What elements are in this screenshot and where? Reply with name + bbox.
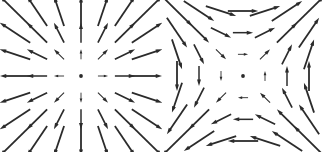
arrow-head: [229, 12, 236, 16]
quiver-arrow: [189, 23, 209, 43]
quiver-arrow: [0, 126, 30, 152]
arrow-head: [80, 49, 83, 53]
arrow-shaft: [115, 51, 132, 59]
arrow-head: [220, 77, 223, 81]
arrow-head: [104, 75, 108, 78]
quiver-arrow: [27, 49, 47, 59]
arrow-head: [264, 71, 267, 75]
arrow-shaft: [169, 104, 187, 130]
arrow-head: [79, 0, 83, 2]
quiver-arrow: [255, 114, 275, 124]
quiver-arrow: [194, 88, 204, 108]
quiver-arrow: [167, 104, 187, 134]
arrow-shaft: [211, 28, 228, 36]
quiver-arrow: [299, 104, 319, 134]
arrow-shaft: [98, 26, 106, 42]
arrow-shaft: [132, 126, 159, 152]
arrow-head: [250, 136, 257, 140]
quiver-arrow: [211, 28, 231, 38]
arrow-head: [285, 66, 289, 72]
arrow-shaft: [187, 131, 214, 149]
arrow-head: [175, 85, 179, 91]
arrow-head: [247, 31, 253, 35]
arrow-shaft: [132, 93, 158, 102]
quiver-arrow: [132, 74, 162, 78]
quiver-arrow: [0, 23, 30, 43]
quiver-arrow: [54, 49, 64, 59]
arrow-shaft: [31, 93, 48, 101]
arrow-head: [273, 6, 280, 10]
quiver-arrow: [260, 49, 270, 59]
vector-field-figure: [0, 0, 324, 152]
quiver-arrow: [175, 61, 179, 91]
arrow-shaft: [3, 25, 30, 43]
arrow-shaft: [4, 51, 30, 60]
quiver-arrow: [98, 0, 108, 26]
arrow-shaft: [189, 23, 206, 40]
arrow-shaft: [115, 109, 132, 126]
quiver-arrow: [98, 49, 108, 59]
quiver-arrow: [0, 0, 30, 26]
arrow-head: [172, 106, 176, 113]
arrow-head: [238, 96, 242, 99]
quiver-arrow: [277, 23, 297, 43]
arrow-shaft: [98, 109, 106, 125]
quiver-arrow: [79, 0, 83, 26]
quiver-arrow: [115, 93, 135, 103]
arrow-head: [27, 98, 34, 103]
quiver-arrow: [285, 66, 289, 86]
arrow-shaft: [184, 1, 211, 19]
arrow-shaft: [29, 0, 47, 26]
arrow-shaft: [115, 126, 133, 152]
quiver-arrow: [194, 44, 204, 64]
quiver-arrow: [54, 0, 64, 26]
arrow-shaft: [192, 109, 209, 126]
quiver-arrow: [79, 23, 83, 43]
quiver-arrow: [98, 109, 108, 129]
arrow-shaft: [30, 109, 47, 126]
quiver-arrow: [216, 49, 226, 59]
quiver-arrow: [197, 66, 201, 86]
arrow-shaft: [115, 0, 133, 26]
quiver-arrow: [220, 71, 223, 81]
quiver-arrow: [115, 23, 135, 43]
arrow-shaft: [132, 25, 159, 43]
arrow-head: [54, 123, 59, 130]
quiver-arrow: [0, 109, 30, 129]
arrow-shaft: [132, 0, 159, 26]
arrow-head: [206, 142, 213, 146]
arrow-shaft: [4, 93, 30, 102]
arrow-shaft: [3, 0, 30, 26]
arrow-shaft: [98, 0, 107, 26]
quiver-arrow: [132, 0, 162, 26]
arrow-head: [54, 75, 58, 78]
arrow-shaft: [132, 51, 158, 60]
arrow-head: [0, 99, 7, 103]
quiver-arrow: [0, 74, 30, 78]
quiver-arrow: [80, 49, 83, 59]
arrow-head: [225, 33, 232, 38]
quiver-arrow: [54, 75, 64, 78]
arrow-shaft: [272, 3, 299, 21]
quiver-arrow: [79, 126, 83, 152]
arrow-head: [103, 23, 108, 30]
arrow-head: [197, 80, 201, 86]
arrow-shaft: [277, 26, 294, 43]
arrow-head: [287, 44, 292, 51]
quiver-arrow: [307, 61, 311, 91]
quiver-arrow: [27, 0, 47, 26]
arrow-head: [80, 98, 83, 102]
quiver-arrow: [0, 49, 30, 59]
quiver-arrow: [255, 28, 275, 38]
quiver-panel-radial-source: [0, 0, 162, 152]
arrow-shaft: [31, 51, 48, 59]
arrow-head: [304, 83, 308, 90]
quiver-arrow: [98, 93, 108, 103]
arrow-shaft: [56, 26, 64, 42]
arrow-head: [0, 49, 7, 53]
arrow-head: [194, 101, 199, 108]
quiver-arrow: [98, 75, 108, 78]
arrow-shaft: [3, 109, 30, 127]
quiver-arrow: [228, 139, 258, 143]
arrow-shaft: [132, 109, 159, 127]
